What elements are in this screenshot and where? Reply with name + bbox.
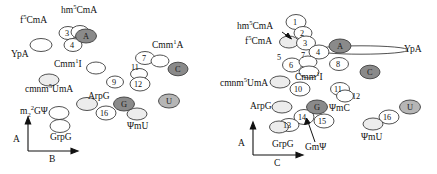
label-sub: 2: [27, 111, 30, 118]
node-number-3: 3: [65, 29, 69, 38]
label-cmm1a: Cmm1A: [152, 41, 183, 51]
x-axis-arrowhead: [296, 152, 303, 157]
node-ellipse: [363, 118, 383, 130]
label-text: I: [319, 72, 322, 82]
node-number-12: 12: [134, 80, 142, 89]
node-number-4: 4: [316, 48, 320, 57]
leader-line-gmpsi: [308, 122, 315, 142]
node-number-8: 8: [336, 60, 340, 69]
node-number-14: 14: [298, 113, 306, 122]
node-ellipse: [30, 39, 52, 52]
label-f5cma: f5CmA: [245, 37, 272, 47]
node-number-6: 6: [289, 61, 293, 70]
label-m22gpsi: m22GΨ: [20, 107, 48, 117]
node-ellipse: [272, 101, 292, 113]
label-text: GΨ: [34, 106, 48, 116]
label-ypa: YpA: [11, 50, 29, 60]
label-text: hm: [237, 21, 249, 31]
nucleotide-g: G: [314, 103, 320, 112]
node-ellipse: [151, 55, 169, 67]
label-arpg: ArpG: [88, 92, 110, 102]
node-ellipse: [50, 120, 70, 133]
node-number-1: 1: [293, 18, 297, 27]
label-text: A: [176, 40, 183, 50]
nucleotide-u: U: [166, 97, 172, 106]
label-text: I: [78, 59, 81, 69]
node-number-13: 13: [283, 121, 291, 130]
label-hm5cma: hm5CmA: [237, 22, 273, 32]
node-number-7: 7: [142, 54, 146, 63]
nucleotide-a: A: [337, 42, 343, 51]
node-ellipse: [49, 107, 69, 120]
scatter-panel-a: 3 4 7 9 12 16 11 A C G U f5CmA hm5CmA Yp…: [0, 0, 219, 174]
label-text: Cmm: [295, 72, 316, 82]
label-psimc: ΨmC: [329, 104, 350, 114]
label-cmnm5uma: cmnm5UmA: [25, 85, 73, 95]
axis-label-x: C: [274, 158, 280, 168]
label-psimu: ΨmU: [361, 133, 382, 143]
label-text: CmA: [252, 21, 273, 31]
label-hm5cma: hm5CmA: [61, 6, 97, 16]
label-text: CmA: [251, 36, 272, 46]
label-gmpsi: GmΨ: [305, 143, 326, 153]
axis-label-y: A: [238, 138, 245, 148]
label-cmm1i: Cmm1I: [295, 73, 323, 83]
label-text: UmA: [247, 78, 268, 88]
node-ellipse: [270, 76, 290, 88]
node-number-9: 9: [112, 78, 116, 87]
node-number-7: 7: [301, 51, 305, 60]
node-number-4: 4: [70, 41, 74, 50]
nucleotide-c: C: [367, 68, 373, 77]
node-number-12: 12: [352, 92, 360, 101]
label-text: Cmm: [152, 40, 173, 50]
node-number-11: 11: [334, 85, 342, 94]
label-text: cmnm: [220, 78, 244, 88]
scatter-panel-b: 1 2 3 4 6 8 10 11 13 14 15 16 5 7 12 A C…: [219, 0, 437, 174]
label-f5cma: f5CmA: [20, 16, 47, 26]
label-text: Cmm: [54, 59, 75, 69]
node-number-2: 2: [300, 29, 304, 38]
nucleotide-g: G: [121, 100, 127, 109]
label-ypa: YpA: [404, 45, 422, 55]
node-number-15: 15: [318, 117, 326, 126]
node-number-5: 5: [277, 53, 281, 62]
label-grpg: GrpG: [272, 140, 294, 150]
label-text: hm: [61, 5, 73, 15]
node-number-3: 3: [303, 39, 307, 48]
x-axis-arrowhead: [71, 148, 78, 153]
y-axis-arrowhead: [25, 117, 30, 124]
label-text: CmA: [26, 15, 47, 25]
figure-canvas: 3 4 7 9 12 16 11 A C G U f5CmA hm5CmA Yp…: [0, 0, 437, 174]
label-text: cmnm: [25, 84, 49, 94]
label-text: CmA: [76, 5, 97, 15]
node-number-10: 10: [294, 85, 302, 94]
label-cmm1i: Cmm1I: [54, 60, 82, 70]
node-number-16: 16: [383, 113, 391, 122]
node-number-11: 11: [131, 63, 139, 72]
node-number-16: 16: [100, 109, 108, 118]
label-arpg: ArpG: [250, 102, 272, 112]
nucleotide-a: A: [83, 32, 89, 41]
axis-label-x: B: [49, 154, 55, 164]
y-axis-arrowhead: [250, 122, 255, 129]
node-ellipse: [87, 62, 106, 74]
axis-label-y: A: [13, 134, 20, 144]
nucleotide-u: U: [407, 103, 413, 112]
label-grpg: GrpG: [50, 133, 72, 143]
label-cmnm5uma: cmnm5UmA: [220, 79, 268, 89]
label-psimu: ΨmU: [127, 122, 148, 132]
nucleotide-c: C: [175, 65, 181, 74]
label-text: UmA: [52, 84, 73, 94]
